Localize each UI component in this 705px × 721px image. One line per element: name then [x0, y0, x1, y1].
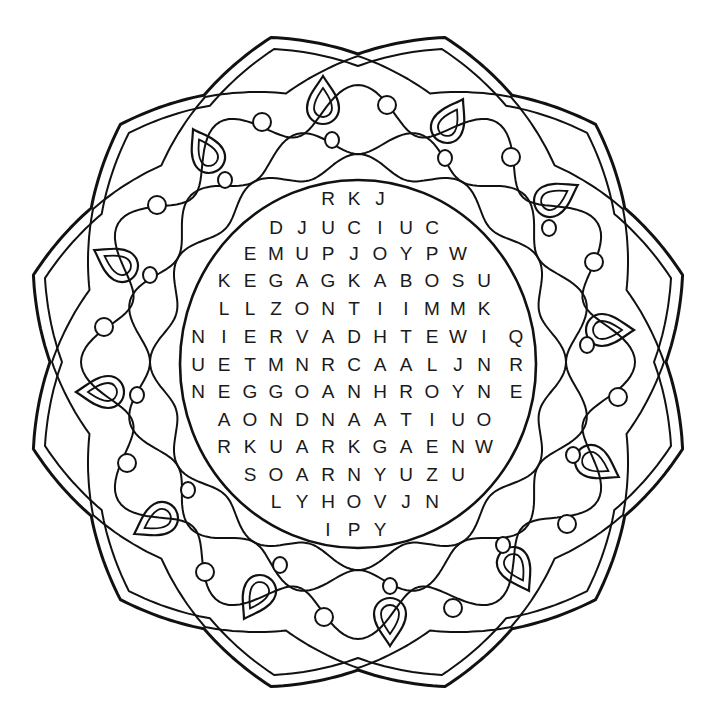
grid-letter[interactable]: I: [421, 408, 443, 432]
grid-letter[interactable]: R: [265, 325, 287, 349]
grid-letter[interactable]: T: [395, 325, 417, 349]
grid-letter[interactable]: A: [291, 435, 313, 459]
grid-letter[interactable]: O: [291, 297, 313, 321]
grid-letter[interactable]: E: [239, 242, 261, 266]
grid-letter[interactable]: G: [265, 380, 287, 404]
grid-letter[interactable]: J: [369, 187, 391, 211]
grid-letter[interactable]: G: [239, 380, 261, 404]
grid-letter[interactable]: K: [343, 269, 365, 293]
grid-letter[interactable]: U: [395, 463, 417, 487]
grid-letter[interactable]: U: [395, 216, 417, 240]
grid-letter[interactable]: T: [395, 408, 417, 432]
grid-letter[interactable]: C: [343, 216, 365, 240]
grid-letter[interactable]: V: [291, 325, 313, 349]
grid-letter[interactable]: N: [187, 325, 209, 349]
grid-letter[interactable]: M: [447, 297, 469, 321]
grid-letter[interactable]: E: [421, 325, 443, 349]
grid-letter[interactable]: D: [343, 325, 365, 349]
grid-letter[interactable]: I: [317, 518, 339, 542]
grid-letter[interactable]: N: [317, 297, 339, 321]
grid-letter[interactable]: G: [317, 269, 339, 293]
grid-letter[interactable]: Z: [421, 463, 443, 487]
grid-letter[interactable]: E: [421, 435, 443, 459]
grid-letter[interactable]: M: [265, 242, 287, 266]
grid-letter[interactable]: G: [369, 435, 391, 459]
grid-letter[interactable]: L: [239, 297, 261, 321]
grid-letter[interactable]: C: [421, 216, 443, 240]
grid-letter[interactable]: N: [343, 380, 365, 404]
grid-letter[interactable]: A: [395, 353, 417, 377]
grid-letter[interactable]: H: [369, 380, 391, 404]
grid-letter[interactable]: O: [239, 408, 261, 432]
grid-letter[interactable]: U: [447, 463, 469, 487]
grid-letter[interactable]: K: [343, 187, 365, 211]
grid-letter[interactable]: K: [239, 435, 261, 459]
grid-letter[interactable]: W: [447, 242, 469, 266]
grid-letter[interactable]: L: [213, 297, 235, 321]
grid-letter[interactable]: W: [473, 435, 495, 459]
grid-letter[interactable]: E: [505, 380, 527, 404]
grid-letter[interactable]: U: [265, 435, 287, 459]
grid-letter[interactable]: U: [447, 408, 469, 432]
grid-letter[interactable]: J: [291, 216, 313, 240]
grid-letter[interactable]: H: [317, 490, 339, 514]
grid-letter[interactable]: G: [265, 269, 287, 293]
grid-letter[interactable]: Y: [369, 463, 391, 487]
grid-letter[interactable]: U: [291, 242, 313, 266]
grid-letter[interactable]: A: [213, 408, 235, 432]
grid-letter[interactable]: J: [447, 353, 469, 377]
grid-letter[interactable]: P: [343, 518, 365, 542]
grid-letter[interactable]: N: [343, 463, 365, 487]
grid-letter[interactable]: N: [473, 353, 495, 377]
grid-letter[interactable]: Z: [265, 297, 287, 321]
grid-letter[interactable]: R: [395, 380, 417, 404]
grid-letter[interactable]: E: [239, 269, 261, 293]
grid-letter[interactable]: R: [213, 435, 235, 459]
grid-letter[interactable]: R: [317, 353, 339, 377]
grid-letter[interactable]: N: [291, 353, 313, 377]
grid-letter[interactable]: U: [473, 269, 495, 293]
grid-letter[interactable]: I: [473, 325, 495, 349]
grid-letter[interactable]: I: [369, 297, 391, 321]
grid-letter[interactable]: R: [317, 463, 339, 487]
grid-letter[interactable]: C: [343, 353, 365, 377]
grid-letter[interactable]: N: [447, 435, 469, 459]
grid-letter[interactable]: U: [187, 353, 209, 377]
grid-letter[interactable]: A: [317, 325, 339, 349]
grid-letter[interactable]: O: [421, 380, 443, 404]
grid-letter[interactable]: S: [239, 463, 261, 487]
grid-letter[interactable]: N: [317, 408, 339, 432]
grid-letter[interactable]: J: [343, 242, 365, 266]
grid-letter[interactable]: A: [291, 463, 313, 487]
grid-letter[interactable]: A: [317, 380, 339, 404]
grid-letter[interactable]: O: [265, 463, 287, 487]
grid-letter[interactable]: W: [447, 325, 469, 349]
grid-letter[interactable]: R: [317, 187, 339, 211]
grid-letter[interactable]: O: [369, 242, 391, 266]
grid-letter[interactable]: O: [421, 269, 443, 293]
grid-letter[interactable]: M: [265, 353, 287, 377]
grid-letter[interactable]: R: [505, 353, 527, 377]
grid-letter[interactable]: A: [343, 408, 365, 432]
grid-letter[interactable]: N: [187, 380, 209, 404]
grid-letter[interactable]: L: [421, 353, 443, 377]
grid-letter[interactable]: I: [213, 325, 235, 349]
grid-letter[interactable]: K: [343, 435, 365, 459]
grid-letter[interactable]: H: [369, 325, 391, 349]
grid-letter[interactable]: O: [291, 380, 313, 404]
grid-letter[interactable]: E: [239, 325, 261, 349]
grid-letter[interactable]: A: [369, 408, 391, 432]
grid-letter[interactable]: K: [213, 269, 235, 293]
grid-letter[interactable]: O: [473, 408, 495, 432]
grid-letter[interactable]: N: [473, 380, 495, 404]
grid-letter[interactable]: N: [421, 490, 443, 514]
grid-letter[interactable]: I: [395, 297, 417, 321]
grid-letter[interactable]: S: [447, 269, 469, 293]
grid-letter[interactable]: B: [395, 269, 417, 293]
grid-letter[interactable]: Y: [447, 380, 469, 404]
grid-letter[interactable]: T: [343, 297, 365, 321]
grid-letter[interactable]: I: [369, 216, 391, 240]
grid-letter[interactable]: K: [473, 297, 495, 321]
grid-letter[interactable]: P: [421, 242, 443, 266]
grid-letter[interactable]: Q: [505, 325, 527, 349]
